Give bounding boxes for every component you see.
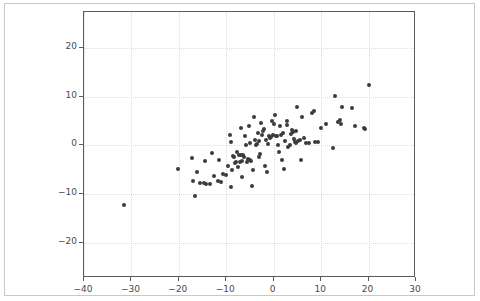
scatter-point <box>190 156 194 160</box>
scatter-point <box>229 185 233 189</box>
scatter-point <box>285 123 289 127</box>
x-axis-tick-label: −40 <box>63 284 103 295</box>
x-axis-tick-label: −10 <box>205 284 245 295</box>
y-axis-tick <box>79 47 83 48</box>
y-axis-tick <box>79 242 83 243</box>
scatter-point <box>230 168 234 172</box>
scatter-point <box>340 105 344 109</box>
scatter-point <box>240 159 244 163</box>
x-axis-tick-label: 30 <box>395 284 435 295</box>
scatter-point <box>278 124 282 128</box>
scatter-point <box>263 164 267 168</box>
x-axis-tick <box>368 277 369 281</box>
scatter-point <box>265 170 269 174</box>
scatter-point <box>193 194 197 198</box>
scatter-point <box>367 83 371 87</box>
scatter-point <box>240 175 244 179</box>
scatter-point <box>232 155 236 159</box>
scatter-point <box>316 140 320 144</box>
scatter-point <box>195 170 199 174</box>
scatter-point <box>260 133 264 137</box>
gridline-horizontal <box>84 243 414 244</box>
scatter-point <box>212 174 216 178</box>
scatter-point <box>249 159 253 163</box>
scatter-point <box>208 182 212 186</box>
scatter-point <box>251 168 255 172</box>
scatter-point <box>363 127 367 131</box>
scatter-point <box>122 203 126 207</box>
scatter-point <box>294 129 298 133</box>
scatter-point <box>219 180 223 184</box>
scatter-point <box>281 131 285 135</box>
scatter-point <box>191 179 195 183</box>
scatter-point <box>228 133 232 137</box>
scatter-point <box>339 122 343 126</box>
x-axis-tick-label: −30 <box>110 284 150 295</box>
scatter-point <box>276 143 280 147</box>
scatter-point <box>324 122 328 126</box>
x-axis-tick-label: −20 <box>158 284 198 295</box>
scatter-point <box>239 126 243 130</box>
scatter-point <box>243 134 247 138</box>
scatter-point <box>299 158 303 162</box>
gridline-vertical <box>226 12 227 276</box>
gridline-vertical <box>369 12 370 276</box>
scatter-point <box>331 146 335 150</box>
scatter-point <box>256 131 260 135</box>
scatter-point <box>353 124 357 128</box>
scatter-point <box>307 141 311 145</box>
gridline-vertical <box>274 12 275 276</box>
scatter-point <box>282 167 286 171</box>
scatter-point <box>229 140 233 144</box>
x-axis-tick <box>83 277 84 281</box>
gridline-horizontal <box>84 145 414 146</box>
scatter-point <box>350 106 354 110</box>
y-axis-tick <box>79 144 83 145</box>
scatter-point <box>319 126 323 130</box>
x-axis-tick <box>415 277 416 281</box>
x-axis-tick-label: 0 <box>253 284 293 295</box>
scatter-point <box>248 141 252 145</box>
scatter-point <box>300 115 304 119</box>
scatter-point <box>247 124 251 128</box>
gridline-vertical <box>84 12 85 276</box>
scatter-point <box>295 105 299 109</box>
gridline-horizontal <box>84 97 414 98</box>
scatter-point <box>252 115 256 119</box>
scatter-point <box>203 159 207 163</box>
y-axis-tick-label: −20 <box>37 236 77 247</box>
gridline-vertical <box>179 12 180 276</box>
x-axis-tick <box>178 277 179 281</box>
scatter-point <box>258 152 262 156</box>
scatter-point <box>236 165 240 169</box>
scatter-point <box>285 119 289 123</box>
gridline-vertical <box>131 12 132 276</box>
gridline-horizontal <box>84 48 414 49</box>
x-axis-tick <box>320 277 321 281</box>
scatter-point <box>224 173 228 177</box>
y-axis-tick-label: 10 <box>37 90 77 101</box>
y-axis-tick-label: −10 <box>37 187 77 198</box>
scatter-point <box>283 139 287 143</box>
scatter-point <box>272 122 276 126</box>
scatter-point <box>210 151 214 155</box>
gridline-vertical <box>321 12 322 276</box>
y-axis-tick-label: 20 <box>37 41 77 52</box>
x-axis-tick <box>273 277 274 281</box>
scatter-point <box>302 136 306 140</box>
y-axis-tick <box>79 96 83 97</box>
scatter-plot-figure: −40−30−20−100102030−20−1001020 <box>0 0 480 301</box>
plot-axes <box>83 11 415 277</box>
scatter-point <box>250 184 254 188</box>
plot-canvas <box>84 12 414 276</box>
scatter-point <box>217 158 221 162</box>
x-axis-tick-label: 10 <box>300 284 340 295</box>
scatter-point <box>262 127 266 131</box>
scatter-point <box>280 158 284 162</box>
scatter-point <box>273 113 277 117</box>
scatter-point <box>266 142 270 146</box>
scatter-point <box>277 150 281 154</box>
y-axis-tick-label: 0 <box>37 138 77 149</box>
scatter-point <box>257 139 261 143</box>
gridline-horizontal <box>84 194 414 195</box>
